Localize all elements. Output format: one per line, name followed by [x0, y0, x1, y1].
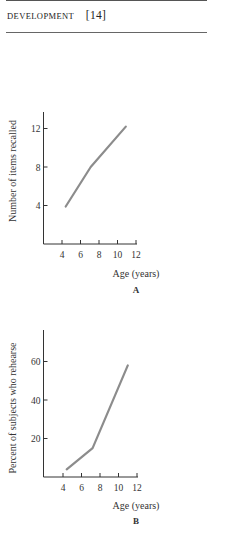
chart-b-line: [67, 365, 128, 469]
chart-b-ylabel: Percent of subjects who rehearse: [7, 342, 18, 474]
chart-b: 4681012204060 Percent of subjects who re…: [0, 0, 226, 542]
x-tick-label: 4: [61, 483, 66, 493]
chart-b-caption: B: [133, 516, 139, 526]
chart-b-xlabel: Age (years): [113, 500, 160, 512]
y-tick-label: 20: [31, 434, 41, 444]
x-tick-label: 6: [79, 483, 84, 493]
x-tick-label: 8: [98, 483, 103, 493]
x-tick-label: 10: [114, 483, 124, 493]
chart-b-axes: 4681012204060: [31, 330, 142, 493]
y-tick-label: 60: [31, 357, 41, 367]
y-tick-label: 40: [31, 396, 41, 406]
x-tick-label: 12: [132, 483, 142, 493]
